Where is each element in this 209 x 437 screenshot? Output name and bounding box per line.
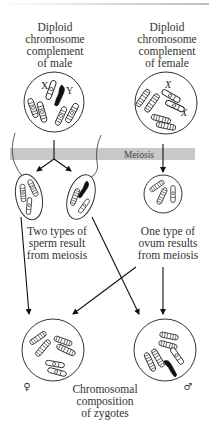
sperm-cell-x — [12, 172, 47, 222]
male-diploid-cell: X Y — [24, 72, 84, 132]
meiosis-label: Meiosis — [124, 150, 154, 160]
sperm-cell-y — [62, 171, 101, 223]
arrow-icon — [21, 217, 29, 314]
female-zygote-cell — [22, 319, 84, 381]
y-chromosome-label: Y — [66, 85, 73, 96]
x-chromosome-label: X — [164, 79, 172, 90]
female-diploid-cell: X X — [135, 72, 197, 134]
male-zygote-cell — [134, 319, 196, 381]
arrow-icon — [54, 159, 71, 171]
meiosis-diagram: X Y X X Meiosis — [0, 0, 209, 437]
x-chromosome-label: X — [41, 80, 49, 91]
ovum-cell — [144, 175, 182, 213]
arrow-icon — [92, 217, 139, 314]
arrow-icon — [37, 159, 54, 171]
meiosis-band — [10, 148, 195, 160]
arrow-icon — [73, 267, 136, 314]
